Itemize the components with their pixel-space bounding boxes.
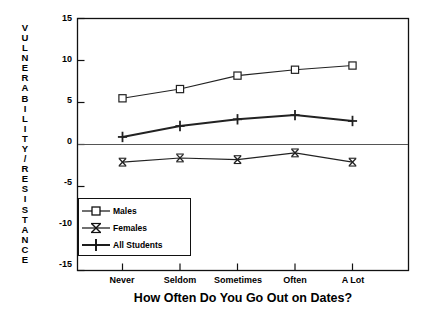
x-tick-label: Seldom (164, 276, 197, 285)
x-marker-icon (79, 220, 113, 236)
legend-label: Females (113, 224, 147, 233)
data-point-marker (349, 62, 356, 69)
legend-label: All Students (113, 241, 163, 250)
chart-legend: Males Females All Students (78, 198, 191, 256)
x-tick-label: Never (109, 276, 134, 285)
square-marker-icon (79, 203, 113, 219)
plot-area (0, 0, 430, 314)
legend-item-all-students: All Students (79, 237, 192, 253)
x-tick-label: A Lot (342, 276, 365, 285)
x-axis-title: How Often Do You Go Out on Dates? (77, 291, 409, 305)
data-point-marker (291, 66, 298, 73)
plus-marker-icon (79, 237, 113, 253)
legend-item-males: Males (79, 203, 192, 219)
legend-label: Males (113, 207, 137, 216)
data-point-marker (119, 95, 126, 102)
legend-item-females: Females (79, 220, 192, 236)
chart-figure: VULNERABILITY/RESISTANCE 15 10 5 0 -5 -1… (0, 0, 430, 314)
data-point-marker (176, 85, 183, 92)
x-tick-label: Often (283, 276, 307, 285)
x-tick-label: Sometimes (214, 276, 262, 285)
data-point-marker (234, 72, 241, 79)
